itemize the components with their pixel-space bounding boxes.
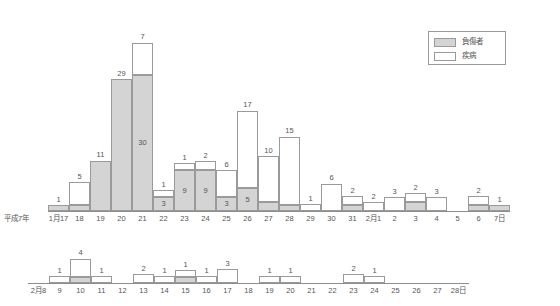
bar-segment-illness: 1 <box>259 276 280 283</box>
bar-column: 1 <box>280 276 301 283</box>
axis-tick-label: 9 <box>57 287 61 295</box>
row2-axis-line <box>28 283 469 284</box>
axis-tick-label: 31 <box>348 215 356 223</box>
axis-tick-label: 24 <box>201 215 209 223</box>
axis-tick-label: 20 <box>286 287 294 295</box>
axis-tick-label: 13 <box>139 287 147 295</box>
axis-tick-label: 25 <box>222 215 230 223</box>
bar-column: 2 <box>405 193 426 211</box>
axis-tick-label: 4 <box>434 215 438 223</box>
axis-tick-label: 28 <box>285 215 293 223</box>
bar-segment-injured: 9 <box>174 170 195 211</box>
bar-segment-injured <box>111 79 132 211</box>
bar-total-label: 6 <box>329 174 333 182</box>
axis-tick-label: 12 <box>118 287 126 295</box>
bar-column: 11 <box>90 161 111 211</box>
bar-column: 2 <box>468 196 489 211</box>
bar-value-label-injured: 1 <box>497 196 501 204</box>
bar-value-label-illness: 2 <box>350 187 354 195</box>
chart-root: 負傷者 疾病 151129307131929365171015162232321… <box>0 0 560 306</box>
bar-value-label-injured: 9 <box>203 187 207 195</box>
bar-total-label: 4 <box>78 249 82 257</box>
bar-segment-illness <box>237 111 258 188</box>
bar-value-label-injured: 5 <box>245 196 249 204</box>
bar-value-label-injured: 30 <box>138 139 146 147</box>
bar-total-label: 29 <box>117 70 125 78</box>
bar-segment-illness: 1 <box>280 276 301 283</box>
axis-tick-label: 23 <box>180 215 188 223</box>
bar-total-label: 15 <box>285 127 293 135</box>
axis-tick-label: 6 <box>476 215 480 223</box>
bar-segment-injured <box>90 161 111 211</box>
bar-value-label-illness: 1 <box>267 267 271 275</box>
row1-axis-start-label: 平成7年 <box>4 215 29 223</box>
axis-tick-label: 16 <box>202 287 210 295</box>
axis-tick-label: 1月17 <box>49 215 69 223</box>
legend-label-injured: 負傷者 <box>462 38 483 46</box>
bar-segment-injured: 9 <box>195 170 216 211</box>
bar-column: 1 <box>259 276 280 283</box>
bar-segment-illness: 2 <box>468 196 489 205</box>
axis-tick-label: 18 <box>244 287 252 295</box>
legend-swatch-illness <box>434 52 456 61</box>
axis-tick-label: 24 <box>370 287 378 295</box>
bar-segment-injured: 3 <box>153 197 174 211</box>
bar-segment-illness <box>426 197 447 211</box>
axis-tick-label: 2月8 <box>31 287 46 295</box>
axis-tick-label: 2月1 <box>366 215 381 223</box>
axis-tick-label: 3 <box>413 215 417 223</box>
bar-value-label-illness: 2 <box>371 193 375 201</box>
bar-column: 2 <box>363 202 384 211</box>
axis-tick-label: 15 <box>181 287 189 295</box>
bar-total-label: 7 <box>140 33 144 41</box>
bar-column: 1 <box>364 276 385 283</box>
bar-value-label-injured: 9 <box>182 187 186 195</box>
bar-value-label-illness: 2 <box>141 265 145 273</box>
axis-tick-label: 17 <box>223 287 231 295</box>
bar-segment-illness: 1 <box>175 270 196 277</box>
bar-value-label-illness: 1 <box>182 154 186 162</box>
bar-segment-illness: 1 <box>49 276 70 283</box>
bar-column: 3 <box>217 269 238 283</box>
axis-tick-label: 22 <box>328 287 336 295</box>
bar-segment-illness <box>321 184 342 211</box>
axis-tick-label: 5 <box>455 215 459 223</box>
bar-column: 1 <box>154 276 175 283</box>
bar-value-label-injured: 3 <box>161 200 165 208</box>
bar-segment-illness: 2 <box>342 196 363 205</box>
bar-column: 3 <box>426 197 447 211</box>
bar-total-label: 3 <box>392 188 396 196</box>
bar-column: 36 <box>216 170 237 211</box>
bar-value-label-illness: 1 <box>288 267 292 275</box>
bar-segment-illness <box>69 182 90 205</box>
bar-segment-illness <box>279 137 300 205</box>
bar-total-label: 10 <box>264 147 272 155</box>
bar-column: 10 <box>258 156 279 211</box>
bar-segment-injured: 5 <box>237 188 258 211</box>
bar-value-label-illness: 1 <box>183 261 187 269</box>
bar-total-label: 11 <box>97 151 105 159</box>
legend-item-injured: 負傷者 <box>434 36 500 48</box>
row1-axis-line <box>48 211 510 212</box>
bar-value-label-injured: 1 <box>56 196 60 204</box>
bar-segment-injured: 3 <box>216 197 237 211</box>
bar-segment-illness: 1 <box>174 163 195 170</box>
chart-legend: 負傷者 疾病 <box>428 31 506 65</box>
bar-column: 517 <box>237 111 258 211</box>
bar-segment-illness <box>217 269 238 283</box>
axis-tick-label: 2 <box>392 215 396 223</box>
axis-tick-label: 7日 <box>494 215 505 223</box>
axis-tick-label: 19 <box>96 215 104 223</box>
legend-label-illness: 疾病 <box>462 52 476 60</box>
bar-column: 2 <box>343 274 364 283</box>
bar-value-label-illness: 1 <box>161 181 165 189</box>
axis-tick-label: 10 <box>76 287 84 295</box>
bar-segment-illness: 1 <box>154 276 175 283</box>
bar-column: 1 <box>196 276 217 283</box>
axis-tick-label: 19 <box>265 287 273 295</box>
legend-item-illness: 疾病 <box>434 50 500 62</box>
bar-total-label: 6 <box>224 161 228 169</box>
axis-tick-label: 26 <box>412 287 420 295</box>
bar-column: 13 <box>153 190 174 211</box>
bar-column: 15 <box>279 137 300 211</box>
